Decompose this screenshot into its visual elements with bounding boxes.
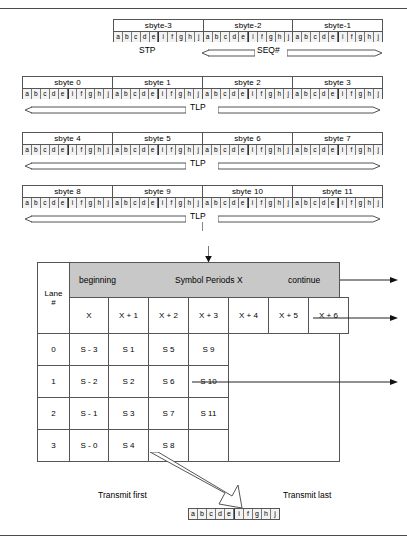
r1-s2-bit-b: b xyxy=(212,89,221,99)
r0-s2-bit-j: j xyxy=(374,32,382,42)
r0-s0-bitcells: abcdeifghj xyxy=(114,32,203,42)
tlp-label-0: TLP xyxy=(190,102,206,112)
r2-s1-bit-g: g xyxy=(176,145,185,155)
r1-s3-bit-f: f xyxy=(347,89,356,99)
r3-s0-bit-j: j xyxy=(104,198,112,208)
r2-s3-bitcells: abcdeifghj xyxy=(293,145,382,155)
r3-s1-bit-i: i xyxy=(158,198,168,208)
r1-s1-bit-b: b xyxy=(122,89,131,99)
r2-s0-bit-c: c xyxy=(41,145,50,155)
r2-s2-bit-i: i xyxy=(248,145,258,155)
r1-s1-bit-j: j xyxy=(194,89,202,99)
symbol-cell-3-1: S 4 xyxy=(108,429,149,462)
r3-s1-bit-g: g xyxy=(176,198,185,208)
annotation-row-tlp-0: TLP xyxy=(22,100,383,116)
r0-s2-bit-d: d xyxy=(320,32,329,42)
sbyte-block: sbyte-2abcdeifghj xyxy=(204,20,294,41)
r2-s2-bit-j: j xyxy=(284,145,292,155)
r0-s0-bit-a: a xyxy=(114,32,123,42)
sbyte-name-label: sbyte 6 xyxy=(203,133,292,145)
symbol-cell-0-2: S 5 xyxy=(148,333,189,366)
r0-s0-bit-d: d xyxy=(141,32,150,42)
r2-s0-bit-g: g xyxy=(86,145,95,155)
r3-s0-bitcells: abcdeifghj xyxy=(23,198,112,208)
r3-s3-bit-g: g xyxy=(356,198,365,208)
r2-s0-bit-i: i xyxy=(68,145,78,155)
r0-s0-bit-f: f xyxy=(168,32,177,42)
r2-s1-bit-b: b xyxy=(122,145,131,155)
r3-s3-bit-e: e xyxy=(329,198,338,208)
r1-s0-bit-d: d xyxy=(50,89,59,99)
r0-s0-bit-j: j xyxy=(195,32,203,42)
r0-s2-bit-f: f xyxy=(348,32,357,42)
r3-s1-bit-j: j xyxy=(194,198,202,208)
r1-s2-bit-j: j xyxy=(284,89,292,99)
symbol-period-pointer-down-icon xyxy=(204,246,213,263)
band-label-continue: continue xyxy=(288,275,320,285)
r3-s1-bit-c: c xyxy=(131,198,140,208)
r3-s2-bit-f: f xyxy=(257,198,266,208)
r3-s0-bit-g: g xyxy=(86,198,95,208)
sbyte-name-label: sbyte 8 xyxy=(23,186,112,198)
sbyte-name-label: sbyte 7 xyxy=(293,133,382,145)
sbyte-block: sbyte 6abcdeifghj xyxy=(203,133,293,154)
r1-s1-bit-g: g xyxy=(176,89,185,99)
r1-s1-bit-c: c xyxy=(131,89,140,99)
sbyte-name-label: sbyte 1 xyxy=(113,77,202,89)
r1-s1-bit-i: i xyxy=(158,89,168,99)
r2-s0-bit-e: e xyxy=(59,145,68,155)
tlp-span-arrow-right-1 xyxy=(218,162,381,170)
sbyte-block: sbyte 0abcdeifghj xyxy=(23,77,113,98)
continue-arrow-band xyxy=(340,276,400,284)
r2-s0-bit-h: h xyxy=(95,145,104,155)
r0-s2-bit-e: e xyxy=(329,32,338,42)
r2-s2-bit-c: c xyxy=(221,145,230,155)
r3-s1-bit-b: b xyxy=(122,198,131,208)
r3-s3-bit-c: c xyxy=(311,198,320,208)
r1-s2-bit-a: a xyxy=(203,89,212,99)
r1-s1-bit-d: d xyxy=(140,89,149,99)
symbol-period-col-4: X + 4 xyxy=(228,297,269,334)
r1-s3-bit-h: h xyxy=(365,89,374,99)
r1-s0-bit-h: h xyxy=(95,89,104,99)
sbyte-block: sbyte 8abcdeifghj xyxy=(23,186,113,207)
lane-number-0: 0 xyxy=(37,333,70,366)
seq-span-arrow-left xyxy=(201,49,255,57)
r1-s2-bitcells: abcdeifghj xyxy=(203,89,292,99)
band-label-beginning: beginning xyxy=(79,275,116,285)
sbyte-block: sbyte 4abcdeifghj xyxy=(23,133,113,154)
continue-arrow-lane-row-1 xyxy=(192,378,400,386)
byte-group-row-tlp-2: sbyte 8abcdeifghjsbyte 9abcdeifghjsbyte … xyxy=(22,185,383,208)
r0-s2-bitcells: abcdeifghj xyxy=(293,32,382,42)
r2-s1-bit-i: i xyxy=(158,145,168,155)
r1-s0-bit-f: f xyxy=(77,89,86,99)
r2-s1-bit-c: c xyxy=(131,145,140,155)
r3-s2-bit-j: j xyxy=(284,198,292,208)
transmit-bit-g: g xyxy=(253,509,262,519)
r3-s3-bit-a: a xyxy=(293,198,302,208)
sbyte-name-label: sbyte-2 xyxy=(204,20,293,32)
r2-s1-bit-d: d xyxy=(140,145,149,155)
r1-s3-bit-a: a xyxy=(293,89,302,99)
lane-header-line2: # xyxy=(51,298,55,307)
r3-s0-bit-e: e xyxy=(59,198,68,208)
r1-s2-bit-g: g xyxy=(266,89,275,99)
r0-s2-bit-a: a xyxy=(293,32,302,42)
r2-s1-bit-e: e xyxy=(149,145,158,155)
byte-group-row-tlp-0: sbyte 0abcdeifghjsbyte 1abcdeifghjsbyte … xyxy=(22,76,383,99)
r0-s1-bitcells: abcdeifghj xyxy=(204,32,293,42)
symbol-cell-0-0: S - 3 xyxy=(69,333,109,366)
tlp-2-tick xyxy=(202,222,203,231)
symbol-cell-2-0: S - 1 xyxy=(69,397,109,430)
sbyte-name-label: sbyte 3 xyxy=(293,77,382,89)
figure-canvas: sbyte-3abcdeifghjsbyte-2abcdeifghjsbyte-… xyxy=(0,0,407,544)
r1-s1-bitcells: abcdeifghj xyxy=(113,89,202,99)
sbyte-name-label: sbyte-1 xyxy=(293,20,382,32)
transmit-first-label: Transmit first xyxy=(98,490,147,500)
transmit-bit-a: a xyxy=(189,509,198,519)
r3-s0-bit-a: a xyxy=(23,198,32,208)
r1-s3-bit-c: c xyxy=(311,89,320,99)
r1-s3-bit-d: d xyxy=(320,89,329,99)
r1-s3-bit-j: j xyxy=(374,89,382,99)
r3-s2-bit-a: a xyxy=(203,198,212,208)
